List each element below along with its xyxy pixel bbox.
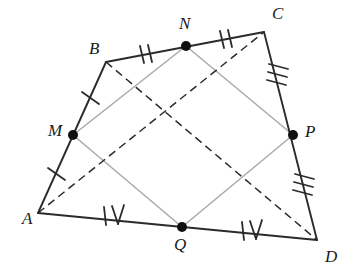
tick-mark-AQ — [104, 205, 124, 225]
quadrilateral-outline — [38, 32, 317, 240]
diagonal-BD — [106, 62, 317, 240]
geometry-diagram: A B C D M N P Q — [0, 0, 351, 277]
inner-parallelogram — [73, 46, 293, 227]
inner-edge-MN — [73, 46, 186, 135]
inner-edge-QM — [73, 135, 182, 227]
midpoint-label-M: M — [48, 122, 62, 139]
tick-mark-PD — [293, 174, 314, 195]
point-N — [181, 41, 191, 51]
tick-mark-MB — [82, 92, 99, 104]
point-M — [68, 130, 78, 140]
tick-mark-QD — [242, 220, 262, 240]
point-P — [288, 130, 298, 140]
midpoint-label-Q: Q — [174, 236, 186, 253]
tick-mark-CP — [267, 64, 288, 85]
inner-edge-NP — [186, 46, 293, 135]
vertex-label-D: D — [325, 248, 337, 265]
inner-edge-PQ — [182, 135, 293, 227]
tick-marks — [48, 30, 314, 240]
midpoint-label-N: N — [179, 15, 190, 32]
vertex-label-A: A — [22, 210, 32, 227]
point-Q — [177, 222, 187, 232]
midpoint-label-P: P — [305, 123, 315, 140]
vertex-label-B: B — [89, 40, 99, 57]
vertex-label-C: C — [272, 5, 283, 22]
diagonals — [38, 32, 317, 240]
